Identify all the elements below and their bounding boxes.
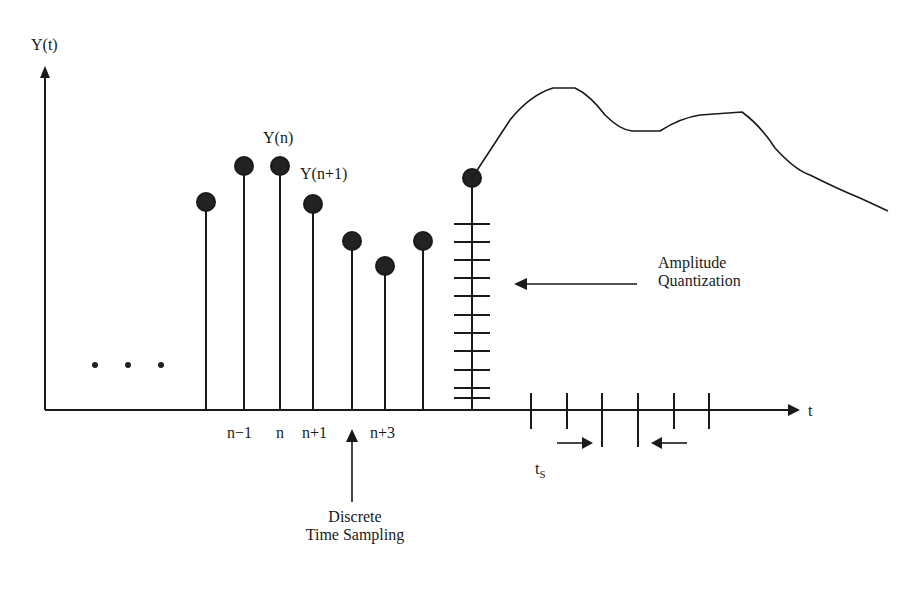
analog-signal-curve [472, 88, 888, 211]
arrow-left-icon [651, 437, 662, 449]
sample-point [197, 193, 215, 211]
tick-label: n [276, 424, 284, 442]
sample-point [235, 157, 253, 175]
quantization-stem [454, 169, 490, 410]
sample-label-yn: Y(n) [263, 129, 293, 147]
sample-point [343, 232, 361, 250]
sample-point [376, 257, 394, 275]
sampling-diagram [0, 0, 915, 590]
sampling-period-label: tS [535, 460, 546, 479]
ts-subscript: S [539, 468, 545, 480]
amplitude-label-line1: Amplitude [658, 254, 741, 272]
sample-point [414, 232, 432, 250]
amplitude-arrow [514, 278, 637, 290]
x-axis-label: t [808, 402, 812, 420]
x-axis-arrow-icon [788, 404, 800, 416]
tick-label: n+1 [302, 424, 327, 442]
discrete-label-line1: Discrete [300, 508, 410, 526]
tick-label: n−1 [227, 424, 252, 442]
sampling-period-ticks [531, 393, 709, 447]
discrete-time-sampling-label: Discrete Time Sampling [300, 508, 410, 544]
arrow-right-icon [582, 437, 593, 449]
sampling-period-arrows [557, 437, 687, 449]
discrete-label-line2: Time Sampling [300, 526, 410, 544]
sample-point [304, 195, 322, 213]
amplitude-label-line2: Quantization [658, 272, 741, 290]
arrow-left-icon [514, 278, 527, 290]
discrete-time-arrow [346, 429, 358, 502]
arrow-up-icon [346, 429, 358, 442]
y-axis-label: Y(t) [31, 36, 58, 54]
y-axis [40, 66, 50, 410]
tick-label: n+3 [370, 424, 395, 442]
sample-point [271, 157, 289, 175]
y-axis-arrow-icon [40, 66, 50, 78]
ellipsis-dots [92, 362, 164, 368]
amplitude-quantization-label: Amplitude Quantization [658, 254, 741, 290]
sample-label-yn1: Y(n+1) [300, 165, 347, 183]
sample-stems [197, 157, 432, 410]
